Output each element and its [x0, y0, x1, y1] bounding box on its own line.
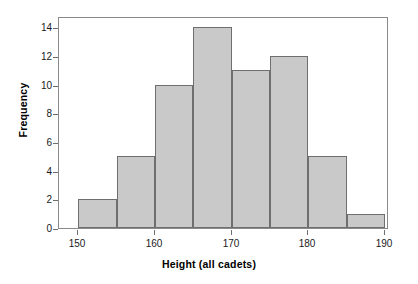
- plot-frame: [58, 17, 388, 229]
- y-tick-label: 6: [12, 138, 52, 148]
- histogram-bar: [270, 56, 308, 228]
- x-axis-title: Height (all cadets): [0, 258, 418, 270]
- y-tick-label: 2: [12, 195, 52, 205]
- y-tick-label: 8: [12, 109, 52, 119]
- y-tick-label: 14: [12, 23, 52, 33]
- x-tick-mark: [384, 230, 385, 235]
- y-tick-label: 10: [12, 81, 52, 91]
- y-tick-label: 0: [12, 224, 52, 234]
- x-tick-label: 190: [364, 238, 404, 249]
- histogram-bar: [193, 27, 231, 228]
- histogram-bar: [155, 85, 193, 228]
- y-tick-mark: [53, 229, 58, 230]
- x-tick-label: 150: [57, 238, 97, 249]
- histogram-bar: [232, 70, 270, 228]
- y-tick-label: 4: [12, 167, 52, 177]
- x-tick-mark: [154, 230, 155, 235]
- histogram-figure: Frequency 02468101214 150160170180190 He…: [0, 0, 418, 284]
- histogram-bar: [308, 156, 346, 228]
- histogram-bar: [117, 156, 155, 228]
- plot-area: [59, 18, 387, 228]
- x-tick-mark: [231, 230, 232, 235]
- histogram-bar: [78, 199, 116, 228]
- x-tick-label: 160: [134, 238, 174, 249]
- x-tick-label: 170: [211, 238, 251, 249]
- x-tick-mark: [307, 230, 308, 235]
- x-tick-mark: [77, 230, 78, 235]
- x-tick-label: 180: [287, 238, 327, 249]
- y-tick-label: 12: [12, 52, 52, 62]
- histogram-bar: [347, 214, 385, 228]
